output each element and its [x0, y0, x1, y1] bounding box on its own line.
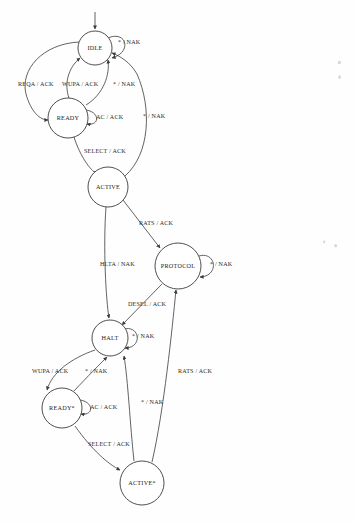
- state-ready-star[interactable]: READY*: [42, 388, 82, 428]
- label-ready-active-select: SELECT / ACK: [84, 148, 126, 154]
- transition-ready-idle-wupa: [67, 58, 80, 98]
- state-halt[interactable]: HALT: [92, 320, 128, 356]
- label-ready-halt-nak: * / NAK: [85, 368, 108, 374]
- label-idle-ready-reqa: REQA / ACK: [18, 81, 54, 87]
- label-halt-self-nak: * / NAK: [132, 333, 155, 339]
- state-protocol[interactable]: PROTOCOL: [155, 243, 201, 289]
- label-idle-self: * / NAK: [118, 39, 141, 45]
- label-ready-idle-wupa: WUPA / ACK: [62, 81, 99, 87]
- label-halt-ready-wupa: WUPA / ACK: [32, 368, 69, 374]
- state-ready-star-label: READY*: [49, 404, 75, 411]
- label-active-protocol-rats: RATS / ACK: [139, 220, 174, 226]
- scan-artifacts: [323, 61, 341, 248]
- label-protocol-halt-desel: DESEL / ACK: [128, 301, 167, 307]
- state-protocol-label: PROTOCOL: [161, 262, 196, 269]
- label-active-halt-hlta: HLTA / NAK: [100, 261, 135, 267]
- label-ready-self-ac2: AC / ACK: [90, 404, 118, 410]
- label-ready-active-select2: SELECT / ACK: [88, 441, 130, 447]
- label-active-idle-nak: * / NAK: [143, 113, 166, 119]
- state-active-label: ACTIVE: [96, 183, 120, 190]
- state-ready[interactable]: READY: [48, 98, 88, 138]
- state-idle-label: IDLE: [87, 44, 102, 51]
- label-protocol-self-nak: * / NAK: [210, 261, 233, 267]
- transition-ready-active-select: [74, 137, 97, 174]
- transition-active-protocol-rats2: [152, 290, 176, 462]
- state-ready-label: READY: [57, 114, 80, 121]
- fsm-canvas: IDLE READY ACTIVE PROTOCOL HALT READY* A…: [0, 0, 355, 524]
- transition-ready-active-select2: [75, 426, 120, 470]
- state-active[interactable]: ACTIVE: [88, 167, 128, 207]
- state-machine-diagram: IDLE READY ACTIVE PROTOCOL HALT READY* A…: [0, 0, 355, 524]
- label-active-protocol-rats2: RATS / ACK: [178, 368, 213, 374]
- state-active-star[interactable]: ACTIVE*: [120, 461, 164, 505]
- label-ready-idle-nak: * / NAK: [113, 81, 136, 87]
- label-ready-self-ac: AC / ACK: [96, 114, 124, 120]
- state-idle[interactable]: IDLE: [78, 31, 112, 65]
- state-active-star-label: ACTIVE*: [128, 479, 156, 486]
- state-halt-label: HALT: [102, 334, 119, 341]
- label-active-halt-nak: * / NAK: [141, 399, 164, 405]
